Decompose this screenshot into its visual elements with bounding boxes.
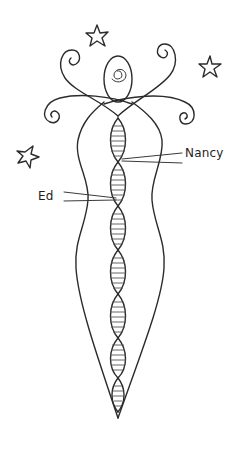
- ed-leader-lines: [64, 192, 116, 201]
- dna-helix: [110, 118, 126, 412]
- upper-right-tendril: [118, 44, 175, 116]
- body-outline: [76, 102, 164, 418]
- star-icon: [17, 146, 39, 168]
- star-icon: [86, 25, 108, 46]
- label-ed: Ed: [38, 189, 54, 203]
- nancy-leader-lines: [122, 153, 182, 163]
- star-icon: [199, 56, 221, 77]
- lower-right-tendril: [104, 96, 194, 124]
- label-nancy: Nancy: [185, 146, 224, 160]
- head: [104, 56, 132, 102]
- goddess-dna-illustration: [0, 0, 251, 449]
